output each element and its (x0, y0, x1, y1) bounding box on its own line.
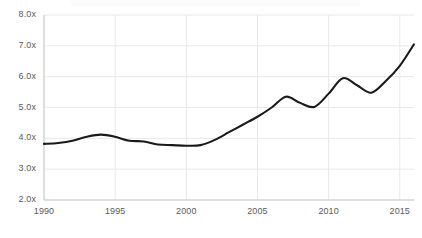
x-axis-tick-label: 1990 (24, 206, 64, 216)
plot-area (0, 0, 422, 238)
y-axis-tick-label: 4.0x (2, 132, 36, 142)
x-axis-tick-label: 1995 (95, 206, 135, 216)
x-axis-tick-label: 2010 (309, 206, 349, 216)
y-axis-tick-label: 2.0x (2, 194, 36, 204)
y-axis-tick-label: 8.0x (2, 9, 36, 19)
y-axis-tick-label: 5.0x (2, 102, 36, 112)
y-axis-tick-label: 7.0x (2, 40, 36, 50)
x-axis-tick-label: 2005 (237, 206, 277, 216)
line-chart: 8.0x7.0x6.0x5.0x4.0x3.0x2.0x 19901995200… (0, 0, 422, 238)
horizontal-gridlines (44, 15, 414, 200)
y-axis-tick-label: 3.0x (2, 163, 36, 173)
data-series-line (44, 44, 414, 146)
x-axis-tick-label: 2015 (380, 206, 420, 216)
x-axis-tick-label: 2000 (166, 206, 206, 216)
y-axis-tick-label: 6.0x (2, 71, 36, 81)
